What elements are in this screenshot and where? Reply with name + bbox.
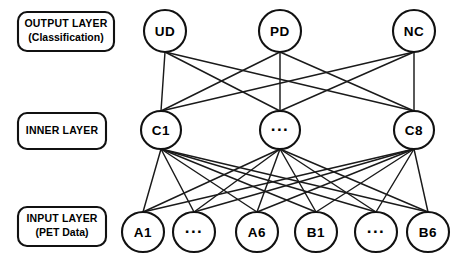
node-bmid[interactable]: ... xyxy=(355,212,397,252)
layer-label-group: OUTPUT LAYER(Classification)INNER LAYERI… xyxy=(18,12,114,246)
input-layer-label-line1: INPUT LAYER xyxy=(26,212,97,224)
edge-node-c8-to-node-b1 xyxy=(316,149,414,212)
edge-group-output-to-inner xyxy=(161,52,414,111)
node-pd-label: PD xyxy=(270,24,290,39)
node-group: UDPDNCC1...C8A1...A6B1...B6 xyxy=(122,10,449,252)
node-b1-label: B1 xyxy=(307,225,325,240)
edge-node-ud-to-node-c1 xyxy=(161,52,165,111)
output-layer-label-line1: OUTPUT LAYER xyxy=(24,17,107,29)
output-layer-label: OUTPUT LAYER(Classification) xyxy=(18,12,114,51)
neural-network-diagram: OUTPUT LAYER(Classification)INNER LAYERI… xyxy=(0,0,467,261)
node-nc-label: NC xyxy=(404,24,425,39)
edge-node-cmid-to-node-b1 xyxy=(280,149,316,212)
network-svg-canvas: OUTPUT LAYER(Classification)INNER LAYERI… xyxy=(0,0,467,261)
node-b6[interactable]: B6 xyxy=(407,212,449,252)
edge-node-cmid-to-node-a1 xyxy=(143,149,280,212)
node-a6[interactable]: A6 xyxy=(236,212,278,252)
node-a1-label: A1 xyxy=(134,225,152,240)
node-ud[interactable]: UD xyxy=(144,10,186,52)
node-a6-label: A6 xyxy=(248,225,266,240)
node-amid[interactable]: ... xyxy=(173,212,215,252)
node-ud-label: UD xyxy=(155,24,176,39)
node-bmid-label: ... xyxy=(367,218,386,237)
edge-group-inner-to-input xyxy=(143,149,428,212)
input-layer-label: INPUT LAYER(PET Data) xyxy=(18,207,106,246)
node-nc[interactable]: NC xyxy=(393,10,435,52)
edge-node-c1-to-node-a6 xyxy=(161,149,257,212)
node-b6-label: B6 xyxy=(419,225,437,240)
node-c1-label: C1 xyxy=(152,123,170,138)
node-c1[interactable]: C1 xyxy=(141,111,181,149)
node-c8[interactable]: C8 xyxy=(394,111,434,149)
node-pd[interactable]: PD xyxy=(259,10,301,52)
edge-node-c1-to-node-amid xyxy=(161,149,194,212)
inner-layer-label: INNER LAYER xyxy=(18,113,106,149)
node-cmid[interactable]: ... xyxy=(260,111,300,149)
node-cmid-label: ... xyxy=(271,116,290,135)
edge-node-c8-to-node-b6 xyxy=(414,149,428,212)
output-layer-label-line2: (Classification) xyxy=(28,31,103,43)
node-amid-label: ... xyxy=(185,218,204,237)
node-c8-label: C8 xyxy=(405,123,423,138)
input-layer-label-line2: (PET Data) xyxy=(35,226,88,238)
edge-node-c1-to-node-a1 xyxy=(143,149,161,212)
node-a1[interactable]: A1 xyxy=(122,212,164,252)
node-b1[interactable]: B1 xyxy=(295,212,337,252)
inner-layer-label-line1: INNER LAYER xyxy=(26,124,99,136)
